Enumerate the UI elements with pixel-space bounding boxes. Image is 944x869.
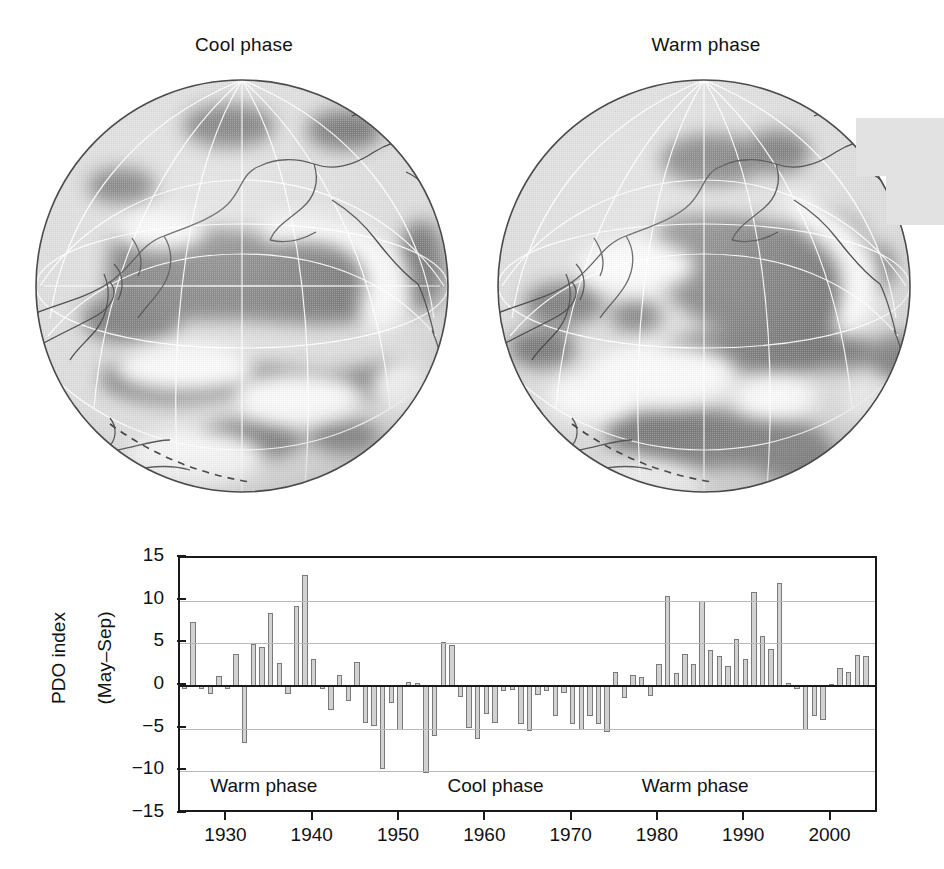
x-tick-label: 1990: [698, 824, 788, 846]
bar: [285, 686, 290, 694]
y-tick-mark: [177, 811, 186, 813]
x-tick-mark: [397, 811, 399, 820]
x-tick-label: 1970: [526, 824, 616, 846]
y-tick-mark: [177, 598, 186, 600]
bar: [717, 656, 722, 686]
x-tick-label: 2000: [785, 824, 875, 846]
bar: [458, 686, 463, 697]
bar: [622, 686, 627, 698]
bar: [743, 659, 748, 686]
bar: [665, 596, 670, 686]
bar: [328, 686, 333, 710]
bar: [596, 686, 601, 724]
x-tick-label: 1980: [612, 824, 702, 846]
x-tick-mark: [224, 811, 226, 820]
globe-cool-phase-image: [14, 68, 474, 504]
y-axis-label-line1: PDO index: [48, 612, 69, 704]
bar: [812, 686, 817, 716]
bar: [208, 686, 213, 694]
bar: [311, 659, 316, 686]
bar: [277, 663, 282, 686]
bar: [354, 662, 359, 686]
bar: [751, 592, 756, 686]
bar: [837, 668, 842, 686]
bar: [777, 583, 782, 686]
bar: [475, 686, 480, 739]
bar: [604, 686, 609, 732]
y-tick-mark: [177, 640, 186, 642]
x-tick-label: 1940: [267, 824, 357, 846]
bar: [259, 647, 264, 686]
y-tick-label: −5: [108, 715, 164, 737]
x-tick-label: 1930: [180, 824, 270, 846]
y-tick-mark: [177, 555, 186, 557]
zero-line: [180, 685, 875, 687]
bar: [397, 686, 402, 730]
bar: [768, 649, 773, 686]
bar: [294, 606, 299, 686]
y-tick-label: 5: [108, 629, 164, 651]
bar: [441, 642, 446, 686]
bar: [691, 664, 696, 686]
bar: [242, 686, 247, 743]
bar: [466, 686, 471, 728]
globe-cool-phase-title: Cool phase: [14, 34, 474, 56]
bar: [302, 575, 307, 686]
bar: [449, 645, 454, 686]
x-tick-mark: [656, 811, 658, 820]
bar: [803, 686, 808, 730]
gridline: [180, 771, 875, 772]
bar: [846, 672, 851, 686]
bar: [371, 686, 376, 726]
bar: [561, 686, 566, 693]
y-tick-label: −10: [108, 757, 164, 779]
phase-annotation: Warm phase: [210, 775, 317, 797]
bar: [251, 644, 256, 686]
bar: [855, 655, 860, 686]
bar: [190, 622, 195, 686]
bar: [363, 686, 368, 723]
y-tick-label: −15: [108, 800, 164, 822]
plot-area: Warm phaseCool phaseWarm phase: [178, 556, 877, 812]
phase-annotation: Warm phase: [642, 775, 749, 797]
x-tick-mark: [483, 811, 485, 820]
globe-warm-phase-title: Warm phase: [476, 34, 936, 56]
phase-annotation: Cool phase: [448, 775, 544, 797]
bar: [820, 686, 825, 720]
gridline: [180, 601, 875, 602]
bar: [656, 664, 661, 686]
bar: [708, 650, 713, 686]
bar: [492, 686, 497, 723]
bar: [863, 656, 868, 686]
gridline: [180, 729, 875, 730]
bar: [587, 686, 592, 716]
y-tick-label: 0: [108, 672, 164, 694]
bar: [648, 686, 653, 696]
bar: [268, 613, 273, 686]
y-tick-mark: [177, 768, 186, 770]
bar: [527, 686, 532, 731]
x-tick-mark: [570, 811, 572, 820]
y-axis-label: PDO index (May–Sep): [24, 528, 116, 788]
x-tick-label: 1950: [353, 824, 443, 846]
y-tick-mark: [177, 683, 186, 685]
y-tick-label: 15: [108, 544, 164, 566]
bar: [389, 686, 394, 703]
bar: [553, 686, 558, 716]
bar: [613, 672, 618, 686]
x-tick-mark: [829, 811, 831, 820]
x-tick-mark: [742, 811, 744, 820]
y-tick-mark: [177, 726, 186, 728]
bar: [682, 654, 687, 686]
scan-artifact-block-1: [856, 118, 944, 176]
x-tick-mark: [311, 811, 313, 820]
bar: [535, 686, 540, 695]
bar: [734, 639, 739, 686]
scan-artifact-block-2: [886, 176, 944, 225]
bar: [484, 686, 489, 714]
x-tick-label: 1960: [439, 824, 529, 846]
globe-panel-cool: Cool phase: [14, 34, 474, 504]
pdo-figure: Cool phase: [0, 0, 944, 869]
bar: [346, 686, 351, 701]
bar: [579, 686, 584, 730]
